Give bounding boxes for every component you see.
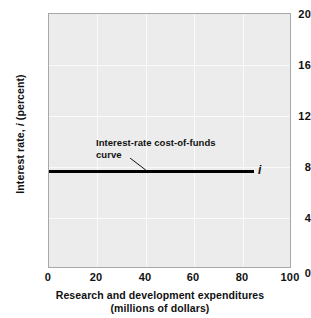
annotation-line-1: Interest-rate cost-of-funds: [96, 137, 216, 148]
y-tick-label-4: 4: [269, 213, 311, 224]
chart-figure: Interest-rate cost-of-funds curve i 20 1…: [0, 0, 311, 318]
y-tick-label-8: 8: [269, 162, 311, 173]
y-tick-label-16: 16: [269, 60, 311, 71]
x-tick-label-20: 20: [76, 272, 116, 283]
gridline-horizontal-16: [49, 65, 290, 66]
y-axis-title: Interest rate, i (percent): [14, 0, 26, 268]
gridline-vertical-80: [243, 14, 244, 267]
x-tick-label-0: 0: [28, 272, 68, 283]
curve-symbol-label: i: [258, 163, 261, 177]
x-tick-label-80: 80: [222, 272, 262, 283]
x-axis-title-line-1: Research and development expenditures: [56, 289, 265, 301]
annotation-line-2: curve: [96, 149, 216, 161]
y-axis-title-wrapper: Interest rate, i (percent): [0, 0, 16, 268]
y-axis-title-symbol: i: [14, 123, 26, 126]
y-tick-label-12: 12: [269, 111, 311, 122]
interest-rate-cost-of-funds-curve: [49, 170, 254, 173]
x-tick-label-60: 60: [173, 272, 213, 283]
y-axis-title-suffix: (percent): [14, 74, 26, 123]
x-tick-label-40: 40: [125, 272, 165, 283]
curve-annotation-label: Interest-rate cost-of-funds curve: [96, 137, 216, 161]
x-tick-label-100: 100: [270, 272, 310, 283]
x-axis-title-line-2: (millions of dollars): [20, 302, 300, 315]
gridline-horizontal-8: [49, 167, 290, 168]
y-tick-label-20: 20: [269, 9, 311, 20]
gridline-horizontal-4: [49, 218, 290, 219]
x-axis-title: Research and development expenditures (m…: [20, 289, 300, 315]
y-axis-title-prefix: Interest rate,: [14, 126, 26, 193]
gridline-horizontal-12: [49, 116, 290, 117]
